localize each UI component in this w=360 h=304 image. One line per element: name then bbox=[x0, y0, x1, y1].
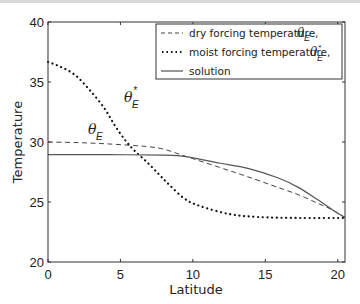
series-solid-line bbox=[48, 155, 345, 218]
y-tick-label: 40 bbox=[30, 15, 44, 30]
series-dotted-line bbox=[48, 62, 345, 218]
x-axis-label: Latitude bbox=[169, 282, 223, 297]
svg-text:E: E bbox=[96, 131, 103, 142]
y-tick-label: 30 bbox=[30, 135, 44, 150]
y-axis-label: Temperature bbox=[10, 101, 25, 184]
svg-text:E: E bbox=[132, 99, 139, 110]
x-tick-label: 20 bbox=[331, 267, 345, 282]
y-tick-label: 20 bbox=[30, 255, 44, 270]
series-dashed-line bbox=[48, 142, 345, 218]
svg-text:E: E bbox=[304, 33, 311, 43]
annotation-theta-e: θ E bbox=[88, 121, 103, 142]
y-tick-label: 35 bbox=[30, 75, 44, 90]
x-tick-label: 0 bbox=[44, 267, 51, 282]
svg-text:*: * bbox=[133, 85, 138, 96]
x-tick-label: 5 bbox=[117, 267, 124, 282]
line-chart: 051015202025303540 Latitude Temperature … bbox=[0, 0, 360, 304]
plot-lines bbox=[48, 62, 345, 218]
svg-text:E: E bbox=[317, 53, 324, 63]
annotation-theta-e-star: θ E * bbox=[124, 85, 139, 110]
legend-solution-label: solution bbox=[189, 65, 231, 77]
y-tick-label: 25 bbox=[30, 195, 44, 210]
legend: dry forcing temperature, θ E moist forci… bbox=[156, 24, 342, 79]
x-tick-label: 15 bbox=[258, 267, 272, 282]
x-tick-label: 10 bbox=[186, 267, 200, 282]
